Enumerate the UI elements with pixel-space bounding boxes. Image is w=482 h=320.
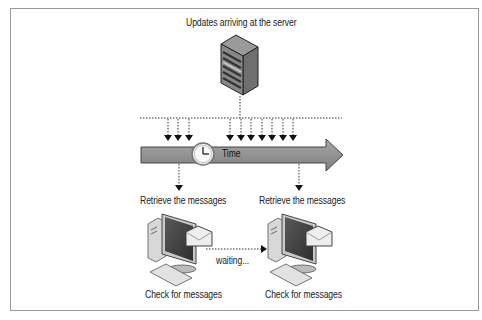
computer-icon (268, 214, 332, 286)
check-label-1: Check for messages (145, 288, 222, 300)
waiting-label: waiting... (216, 254, 249, 266)
retrieve-arrowhead-2 (295, 185, 303, 191)
retrieve-label-2: Retrieve the messages (259, 194, 345, 206)
update-arrowheads (164, 135, 297, 141)
server-title: Updates arriving at the server (186, 16, 296, 28)
retrieve-arrowhead-1 (175, 185, 183, 191)
update-arrows (168, 119, 293, 136)
server-icon (221, 35, 258, 95)
computer-icon (148, 214, 212, 286)
check-label-2: Check for messages (265, 288, 342, 300)
time-label: Time (222, 147, 240, 159)
clock-icon (192, 143, 214, 165)
retrieve-label-1: Retrieve the messages (140, 194, 226, 206)
timeline-arrow (141, 139, 343, 171)
polling-diagram (0, 0, 482, 320)
waiting-arrowhead (261, 245, 267, 253)
